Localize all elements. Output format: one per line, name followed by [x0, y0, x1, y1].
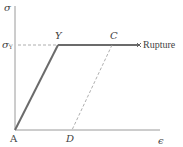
- point-y-label: Y: [55, 31, 62, 41]
- elastic-loading-line: [15, 45, 58, 130]
- x-axis-label: ϵ: [158, 136, 164, 146]
- rupture-label: Rupture: [143, 40, 175, 50]
- point-c-label: C: [110, 31, 118, 41]
- point-a-label: A: [10, 134, 17, 144]
- point-d-label: D: [66, 134, 74, 144]
- diagram-canvas: [0, 0, 183, 147]
- yield-stress-subscript: Y: [9, 43, 13, 50]
- y-axis-label: σ: [4, 3, 11, 13]
- unloading-dashed-line: [72, 45, 112, 130]
- stress-strain-diagram: σ σY Y C Rupture A D ϵ: [0, 0, 183, 147]
- yield-stress-symbol: σ: [2, 39, 9, 50]
- yield-stress-label: σY: [2, 40, 13, 52]
